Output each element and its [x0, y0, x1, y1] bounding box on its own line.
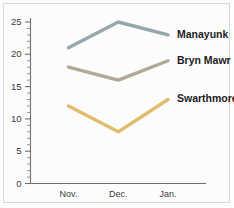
y-tick-label: 15 [11, 81, 22, 92]
series-label-bryn-mawr: Bryn Mawr [177, 54, 231, 66]
series-line-bryn-mawr [69, 61, 169, 80]
series-line-swarthmore [69, 100, 169, 132]
x-tick-label: Jan. [159, 189, 176, 199]
series-label-manayunk: Manayunk [177, 28, 229, 40]
x-tick-label: Dec. [109, 189, 128, 199]
series-label-swarthmore: Swarthmore [177, 92, 234, 104]
y-tick-label: 25 [11, 16, 22, 27]
line-chart-plot: 0510152025 Nov.Dec.Jan. ManayunkBryn Maw… [0, 0, 234, 208]
y-axis-ticks: 0510152025 [11, 16, 31, 189]
x-axis-ticks: Nov.Dec.Jan. [60, 189, 177, 199]
series-lines-group [69, 22, 169, 132]
x-tick-label: Nov. [60, 189, 78, 199]
y-tick-label: 10 [11, 113, 22, 124]
y-tick-label: 0 [16, 178, 21, 189]
y-tick-label: 20 [11, 48, 22, 59]
series-labels-group: ManayunkBryn MawrSwarthmore [177, 28, 234, 105]
y-tick-label: 5 [16, 145, 21, 156]
chart-figure: 0510152025 Nov.Dec.Jan. ManayunkBryn Maw… [0, 0, 234, 208]
series-line-manayunk [69, 22, 169, 48]
